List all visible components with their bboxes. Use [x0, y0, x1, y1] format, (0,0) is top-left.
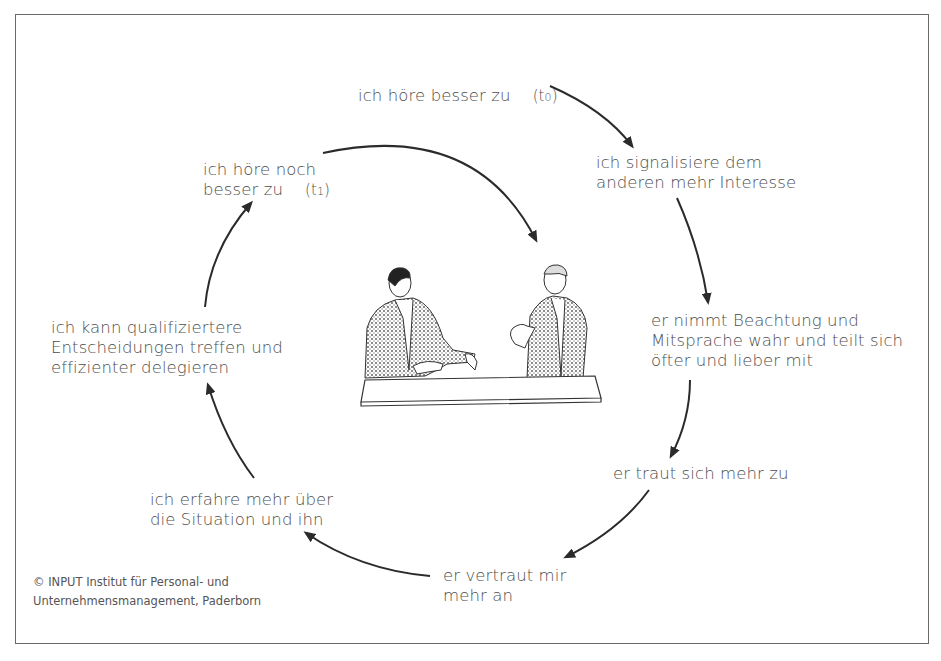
time-marker-t1: (t1) [305, 181, 330, 199]
cycle-node-3: er nimmt Beachtung und Mitsprache wahr u… [651, 311, 903, 371]
cycle-node-1: ich höre besser zu(t0) [358, 86, 558, 108]
arrow-n1-n2 [550, 86, 632, 146]
arrow-n5-n6 [306, 533, 430, 576]
arrow-n6-n7 [208, 385, 254, 478]
arrow-n4-n5 [566, 490, 649, 557]
cycle-node-8: ich höre noch besser zu(t1) [203, 160, 330, 202]
cycle-node-6: ich erfahre mehr über die Situation und … [150, 490, 333, 530]
arrow-n7-n8 [205, 203, 251, 307]
arrow-n3-n4 [671, 380, 690, 456]
arrow-n8-center [323, 146, 536, 240]
man-right [510, 265, 587, 378]
cycle-node-4: er traut sich mehr zu [613, 464, 789, 484]
time-marker-t0: (t0) [533, 87, 558, 105]
arrow-n2-n3 [677, 198, 708, 302]
copyright-notice: © INPUT Institut für Personal- und Unter… [33, 573, 261, 611]
cycle-node-7: ich kann qualifiziertere Entscheidungen … [51, 318, 283, 378]
cycle-node-2: ich signalisiere dem anderen mehr Intere… [596, 153, 796, 193]
man-left [365, 268, 477, 378]
two-businessmen-illustration [355, 258, 605, 408]
table [361, 376, 601, 406]
cycle-node-5: er vertraut mir mehr an [443, 566, 566, 606]
node-1-text: ich höre besser zu [358, 86, 511, 105]
